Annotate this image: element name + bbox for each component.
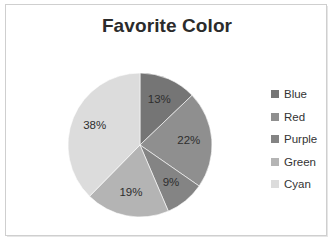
legend-item[interactable]: Blue [271,83,334,106]
pie-slice-label: 38% [83,119,106,131]
legend-item[interactable]: Green [271,151,334,174]
legend-item-label: Blue [284,88,307,100]
pie-slice-label: 22% [177,134,200,146]
legend-item-label: Green [284,156,316,168]
legend-item-label: Red [284,111,305,123]
legend-item-label: Cyan [284,178,311,190]
legend-item[interactable]: Cyan [271,173,334,196]
pie-slice-label: 9% [163,176,180,188]
legend-item-label: Purple [284,133,317,145]
legend-swatch-icon [271,135,279,143]
pie-svg: 13%22%9%19%38% [64,69,216,221]
legend-swatch-icon [271,90,279,98]
pie-slice-label: 13% [148,93,171,105]
chart-legend: BlueRedPurpleGreenCyan [271,83,334,196]
legend-swatch-icon [271,113,279,121]
legend-swatch-icon [271,180,279,188]
legend-swatch-icon [271,158,279,166]
chart-title: Favorite Color [6,15,328,37]
pie-slice-label: 19% [119,186,142,198]
pie-chart[interactable]: 13%22%9%19%38% [64,69,216,221]
legend-item[interactable]: Red [271,106,334,129]
chart-frame: Favorite Color 13%22%9%19%38% BlueRedPur… [5,4,327,236]
legend-item[interactable]: Purple [271,128,334,151]
